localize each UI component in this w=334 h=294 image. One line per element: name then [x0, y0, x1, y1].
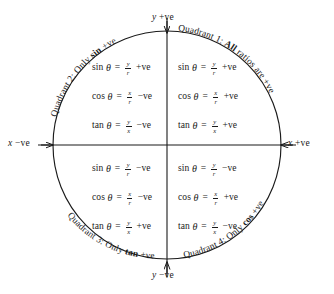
fraction: xr	[127, 89, 133, 105]
fraction: yx	[212, 219, 218, 235]
formula-row: tanθ = yx −ve	[92, 118, 152, 134]
cast-trig-quadrant-diagram: Quadrant 1: All ratios are +ve Quadrant …	[0, 0, 334, 294]
fraction: yx	[126, 219, 132, 235]
formula-row: sinθ = yr +ve	[178, 60, 238, 76]
formula-row: cosθ = xr −ve	[92, 190, 152, 206]
fraction: yx	[212, 118, 218, 134]
formula-row: cosθ = xr −ve	[92, 89, 152, 105]
formula-row: sinθ = yr +ve	[92, 60, 152, 76]
fraction: xr	[213, 190, 219, 206]
formula-row: sinθ = yr −ve	[92, 161, 152, 177]
fraction: yr	[125, 161, 131, 177]
formula-row: tanθ = yx +ve	[92, 219, 152, 235]
axis-label-y-positive: y +ve	[152, 12, 174, 22]
fraction: yx	[126, 118, 132, 134]
diagram-canvas: Quadrant 1: All ratios are +ve Quadrant …	[0, 0, 334, 294]
quadrant-3-formula-block: sinθ = yr −ve cosθ = xr −ve tanθ = yx +v…	[92, 161, 152, 235]
formula-row: cosθ = xr +ve	[178, 190, 238, 206]
formula-row: tanθ = yx +ve	[178, 118, 238, 134]
axis-label-x-positive: x +ve	[288, 138, 310, 148]
fraction: yr	[125, 60, 131, 76]
fraction: yr	[211, 60, 217, 76]
fraction: yr	[211, 161, 217, 177]
quadrant-1-formula-block: sinθ = yr +ve cosθ = xr +ve tanθ = yx +v…	[178, 60, 238, 134]
quadrant-4-formula-block: sinθ = yr −ve cosθ = xr +ve tanθ = yx −v…	[178, 161, 238, 235]
axis-label-y-negative: y −ve	[152, 270, 174, 280]
fraction: xr	[213, 89, 219, 105]
formula-row: sinθ = yr −ve	[178, 161, 238, 177]
fraction: xr	[127, 190, 133, 206]
axis-label-x-negative: x −ve	[8, 138, 30, 148]
formula-row: cosθ = xr +ve	[178, 89, 238, 105]
quadrant-2-formula-block: sinθ = yr +ve cosθ = xr −ve tanθ = yx −v…	[92, 60, 152, 134]
formula-row: tanθ = yx −ve	[178, 219, 238, 235]
